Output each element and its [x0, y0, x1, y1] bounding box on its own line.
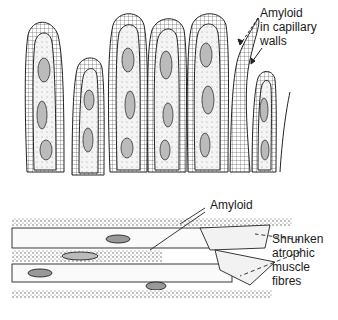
villi-drawing: [25, 14, 290, 175]
label-shrunken-atrophic-muscle-fibres: Shrunken atrophic muscle fibres: [272, 232, 323, 288]
label-amyloid: Amyloid: [210, 198, 253, 212]
label-line: Shrunken: [272, 232, 323, 246]
muscle-fibres-drawing: [12, 208, 300, 298]
label-line: Amyloid: [210, 198, 253, 212]
label-line: in capillary: [260, 20, 317, 34]
label-line: Amyloid: [260, 6, 317, 20]
label-amyloid-capillary-walls: Amyloid in capillary walls: [260, 6, 317, 48]
label-line: fibres: [272, 274, 323, 288]
label-line: walls: [260, 34, 317, 48]
label-line: atrophic: [272, 246, 323, 260]
label-line: muscle: [272, 260, 323, 274]
